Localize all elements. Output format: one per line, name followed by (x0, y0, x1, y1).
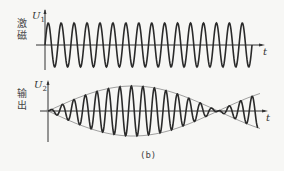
bottom-y-arrow-icon (47, 80, 50, 85)
panel-2-x-label: t (266, 112, 270, 123)
panel-1-x-label: t (263, 46, 267, 57)
u1-sub: 1 (40, 16, 44, 24)
figure-caption: (b) (140, 150, 156, 160)
u2-sub: 2 (42, 85, 46, 93)
panel-2-side-label: 输出 (17, 88, 28, 112)
panel-1-side-label: 激磁 (17, 18, 28, 42)
panel-1-y-label: U1 (32, 10, 45, 24)
panel-2-y-label: U2 (34, 79, 47, 93)
